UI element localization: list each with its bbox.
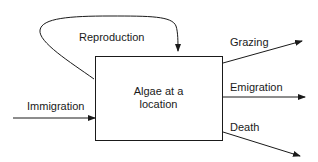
central-box-line-1: Algae at a: [134, 85, 184, 98]
reproduction-label: Reproduction: [79, 31, 144, 43]
flow-diagram: Algae at a location Reproduction Immigra…: [0, 0, 318, 162]
central-box-label: Algae at a location: [95, 56, 222, 140]
immigration-label: Immigration: [27, 100, 84, 112]
death-arrow: [223, 132, 300, 156]
central-box-line-2: location: [140, 98, 178, 111]
death-label: Death: [230, 121, 259, 133]
grazing-label: Grazing: [230, 36, 269, 48]
emigration-label: Emigration: [230, 81, 283, 93]
